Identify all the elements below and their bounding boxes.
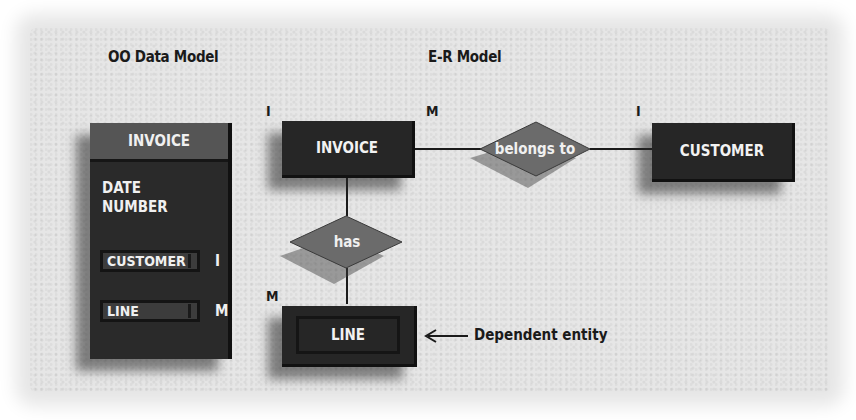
cardinality-line: M (266, 288, 279, 304)
oo-attribute-number: NUMBER (102, 198, 168, 217)
relationship-belongs-to: belongs to (476, 118, 594, 180)
oo-model-heading: OO Data Model (108, 48, 218, 66)
oo-reference-line-label: LINE (107, 303, 139, 319)
relationship-has: has (288, 214, 406, 270)
oo-reference-divider (188, 304, 191, 318)
oo-attribute-date: DATE (102, 179, 141, 198)
entity-line-label: LINE (331, 326, 365, 344)
left-arrow-icon (424, 329, 468, 343)
cardinality-customer: I (636, 103, 641, 119)
cardinality-invoice-left: I (266, 103, 271, 119)
oo-reference-divider (188, 254, 191, 268)
oo-reference-line: LINE (100, 300, 200, 322)
entity-invoice: INVOICE (282, 121, 415, 178)
entity-line-weak: LINE (282, 306, 417, 367)
oo-invoice-class: INVOICE DATE NUMBER CUSTOMER I LINE M (90, 123, 232, 359)
relationship-belongs-to-label: belongs to (476, 118, 594, 180)
relationship-has-label: has (288, 214, 406, 270)
oo-reference-customer-label: CUSTOMER (107, 253, 186, 269)
er-model-heading: E-R Model (428, 48, 501, 66)
connector-belongsto-customer (590, 148, 654, 150)
oo-class-title: INVOICE (90, 123, 228, 162)
oo-reference-customer: CUSTOMER (100, 250, 200, 272)
connector-invoice-has (346, 178, 348, 216)
oo-cardinality-line: M (215, 302, 228, 320)
oo-cardinality-customer: I (215, 252, 220, 270)
connector-invoice-belongsto (414, 148, 482, 150)
dependent-entity-label: Dependent entity (474, 326, 607, 344)
entity-customer: CUSTOMER (652, 123, 795, 182)
cardinality-invoice-right: M (426, 103, 439, 119)
